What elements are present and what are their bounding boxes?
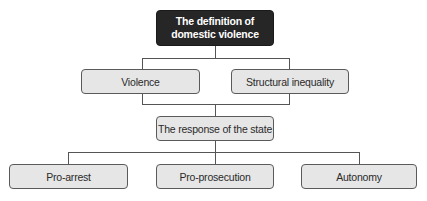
node-label: Violence bbox=[121, 76, 160, 88]
node-definition-of-domestic-violence: The definition of domestic violence bbox=[156, 10, 274, 46]
node-label: The response of the state bbox=[158, 123, 272, 135]
node-response-of-the-state: The response of the state bbox=[156, 116, 274, 141]
connector-level2-bar bbox=[68, 152, 360, 153]
node-label: The definition of domestic violence bbox=[171, 15, 259, 41]
node-pro-arrest: Pro-arrest bbox=[9, 164, 128, 189]
node-structural-inequality: Structural inequality bbox=[231, 69, 349, 94]
node-violence: Violence bbox=[81, 69, 200, 94]
connector-from-structural-inequality bbox=[289, 94, 290, 104]
node-label: Pro-arrest bbox=[46, 171, 91, 183]
node-pro-prosecution: Pro-prosecution bbox=[156, 164, 274, 189]
connector-to-pro-arrest bbox=[68, 152, 69, 164]
connector-to-autonomy bbox=[359, 152, 360, 164]
node-autonomy: Autonomy bbox=[301, 164, 417, 189]
connector-level1-top-bar bbox=[142, 58, 290, 59]
node-label: Structural inequality bbox=[246, 76, 334, 88]
connector-level1-bottom-bar bbox=[142, 104, 290, 105]
connector-to-response bbox=[215, 104, 216, 116]
connector-root-down bbox=[215, 46, 216, 58]
connector-from-violence bbox=[142, 94, 143, 104]
node-label: Autonomy bbox=[336, 171, 382, 183]
connector-to-structural-inequality bbox=[289, 58, 290, 69]
connector-to-violence bbox=[142, 58, 143, 69]
node-label: Pro-prosecution bbox=[179, 171, 250, 183]
